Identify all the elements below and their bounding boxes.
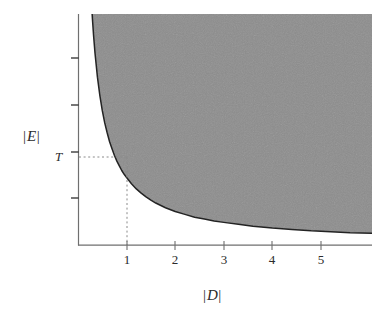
figure-container: |E| |D| T 12345 (0, 0, 384, 316)
x-axis-title-bar-left: | (203, 287, 207, 303)
y-axis-tick-label-threshold: T (55, 150, 62, 163)
y-axis-title: |E| (23, 129, 40, 144)
x-axis-tick-label-4: 4 (264, 253, 280, 266)
x-axis-title-bar-right: | (218, 287, 222, 303)
shaded-region (72, 8, 372, 233)
x-axis-title-variable: D (207, 287, 219, 303)
x-axis-tick-label-5: 5 (313, 253, 329, 266)
x-axis-title: |D| (203, 288, 222, 303)
x-axis-tick-label-2: 2 (167, 253, 183, 266)
y-axis-title-bar-right: | (37, 128, 41, 144)
x-axis-tick-label-3: 3 (216, 253, 232, 266)
threshold-guide-lines (79, 157, 127, 245)
y-axis-ticks (71, 58, 79, 198)
y-axis-title-bar-left: | (23, 128, 27, 144)
y-axis-title-variable: E (27, 128, 37, 144)
x-axis-tick-label-1: 1 (119, 253, 135, 266)
